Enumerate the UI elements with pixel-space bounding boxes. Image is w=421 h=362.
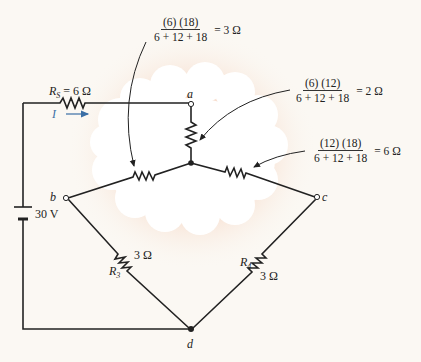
battery-symbol: [14, 207, 32, 219]
current-label: I: [52, 108, 56, 120]
node-center-junction: [188, 160, 194, 166]
circuit-diagram: RS = 6 Ω I 30 V a b c d 3 Ω R3 R4 3 Ω (6…: [0, 0, 421, 362]
annotation-ra-formula: (6) (12)6 + 12 + 18 = 2 Ω: [294, 77, 383, 104]
node-c-terminal: [314, 194, 319, 199]
node-d-junction: [188, 326, 194, 332]
annotation-rb-formula: (6) (18)6 + 12 + 18 = 3 Ω: [152, 16, 241, 43]
battery-label: 30 V: [35, 208, 58, 220]
node-d-label: d: [187, 338, 193, 350]
node-b-label: b: [50, 191, 56, 203]
r4-value: 3 Ω: [260, 270, 278, 282]
node-a-label: a: [187, 88, 193, 100]
circuit-svg: [0, 0, 421, 362]
rs-label: RS = 6 Ω: [49, 85, 91, 100]
annotation-rc-formula: (12) (18)6 + 12 + 18 = 6 Ω: [312, 137, 401, 164]
r3-value: 3 Ω: [134, 249, 152, 261]
node-a-terminal: [188, 101, 193, 106]
r3-label: R3: [109, 265, 120, 280]
node-b-terminal: [63, 195, 68, 200]
r4-label: R4: [240, 256, 251, 271]
node-c-label: c: [322, 191, 327, 203]
